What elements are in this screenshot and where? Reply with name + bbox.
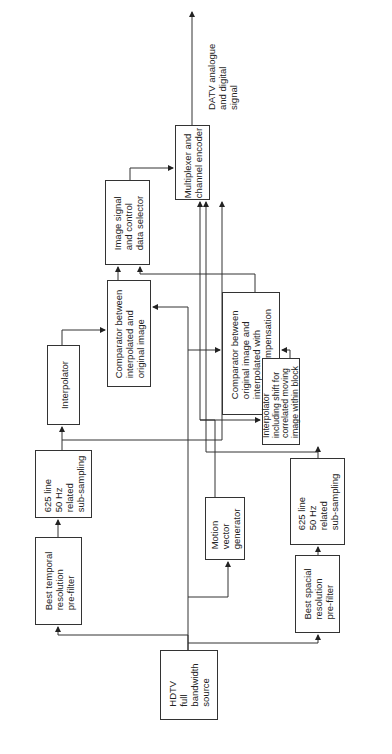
- motion-vector-generator-block: Motion vector generator: [205, 497, 245, 560]
- subsampling-625-a-block: 625 line 50 Hz related sub-sampling: [35, 450, 92, 518]
- output-signal-label: DATV analogue and digital signal: [206, 44, 239, 110]
- comparator-a-block: Comparator between interpolated and orig…: [107, 280, 151, 387]
- selector-block: Image signal and control data selector: [105, 180, 150, 265]
- multiplexer-block: Multiplexer and channel encoder: [175, 125, 210, 200]
- hdtv-source-label: HDTV full bandwidth source: [167, 663, 211, 706]
- best-temporal-label: Best temporal resolution pre-filter: [42, 552, 75, 611]
- best-temporal-prefilter-block: Best temporal resolution pre-filter: [35, 537, 82, 625]
- hdtv-source-block: HDTV full bandwidth source: [160, 650, 218, 720]
- subsampling-625-a-label: 625 line 50 Hz related sub-sampling: [42, 456, 86, 513]
- interpolator-block: Interpolator: [47, 345, 80, 425]
- best-spacial-label: Best spacial resolution pre-filter: [301, 568, 334, 619]
- best-spacial-prefilter-block: Best spacial resolution pre-filter: [295, 555, 340, 633]
- multiplexer-label: Multiplexer and channel encoder: [182, 127, 204, 197]
- interpolator-label: Interpolator: [58, 361, 69, 409]
- subsampling-625-b-block: 625 line 50 Hz related sub-sampling: [290, 458, 345, 545]
- selector-label: Image signal and control data selector: [111, 195, 144, 249]
- motion-vector-label: Motion vector generator: [209, 508, 242, 549]
- interpolator-shift-block: Interpolator including shift for correla…: [262, 358, 300, 445]
- comparator-a-label: Comparator between interpolated and orig…: [113, 289, 146, 378]
- subsampling-625-b-label: 625 line 50 Hz related sub-sampling: [296, 473, 340, 530]
- interpolator-shift-label: Interpolator including shift for correla…: [262, 366, 300, 438]
